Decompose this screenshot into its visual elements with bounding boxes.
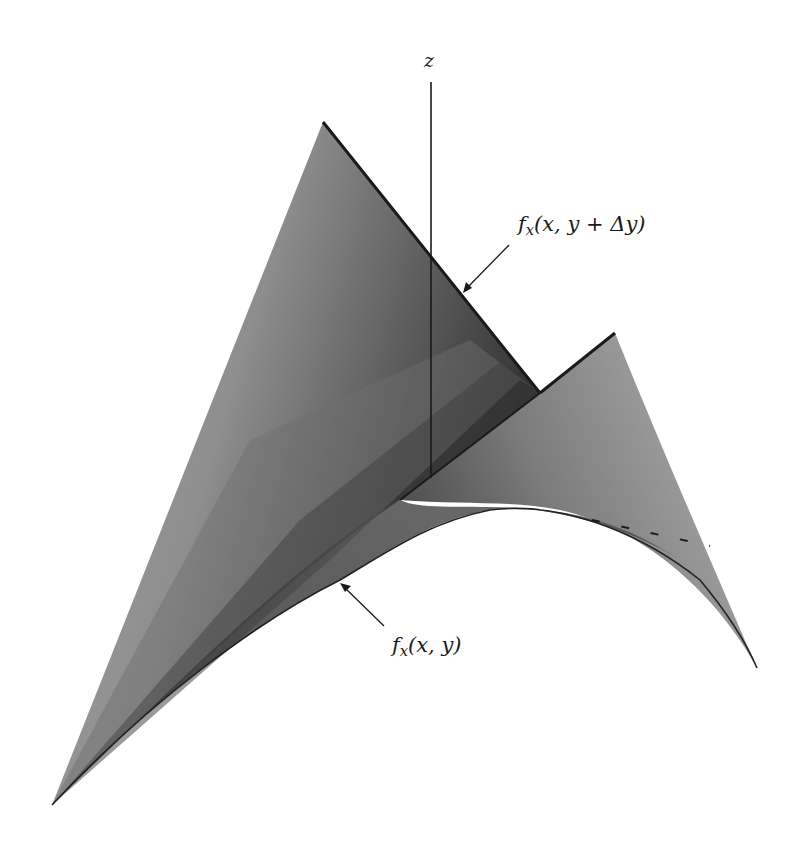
- lower-curve-label: fx(x, y): [392, 633, 462, 659]
- arrow-upper-curve: [466, 245, 509, 289]
- surface-figure: [0, 0, 801, 848]
- upper-curve-label: fx(x, y + Δy): [518, 212, 646, 238]
- z-axis-label: z: [424, 49, 434, 71]
- arrowhead-lower: [340, 583, 351, 592]
- arrow-lower-curve: [344, 587, 384, 626]
